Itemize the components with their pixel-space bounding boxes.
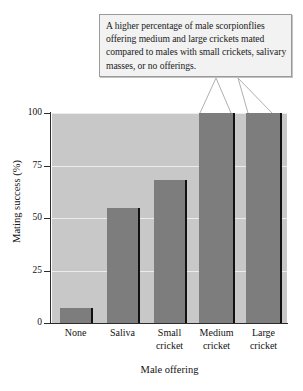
x-tick-label-line: cricket bbox=[240, 340, 287, 353]
y-tick-label: 0 bbox=[16, 317, 42, 327]
bar-large-cricket bbox=[246, 113, 283, 323]
y-tick-mark bbox=[44, 113, 51, 114]
x-tick-label-line: None bbox=[52, 327, 99, 340]
bar-slot bbox=[146, 113, 193, 323]
x-tick-label: None bbox=[52, 327, 99, 352]
bar-small-cricket bbox=[154, 180, 186, 323]
x-tick-label-line: Saliva bbox=[99, 327, 146, 340]
bar-none bbox=[60, 308, 92, 323]
bar-series bbox=[52, 113, 287, 323]
x-tick-label: Saliva bbox=[99, 327, 146, 352]
x-tick-label-line: Medium bbox=[193, 327, 240, 340]
bar-slot bbox=[99, 113, 146, 323]
callout-text: A higher percentage of male scorpionflie… bbox=[106, 19, 287, 72]
plot-area bbox=[52, 113, 287, 323]
x-tick-label-line: Small bbox=[146, 327, 193, 340]
callout-box: A higher percentage of male scorpionflie… bbox=[99, 14, 292, 77]
x-tick-label-line: cricket bbox=[193, 340, 240, 353]
x-axis-labels: NoneSalivaSmallcricketMediumcricketLarge… bbox=[52, 327, 287, 352]
x-tick-label-line: Large bbox=[240, 327, 287, 340]
x-axis-title: Male offering bbox=[52, 364, 287, 375]
bar-medium-cricket bbox=[199, 113, 236, 323]
y-tick-mark bbox=[44, 166, 51, 167]
bar-saliva bbox=[107, 208, 139, 324]
y-tick-mark bbox=[44, 271, 51, 272]
bar-slot bbox=[52, 113, 99, 323]
y-tick-label: 100 bbox=[16, 107, 42, 117]
x-tick-label: Largecricket bbox=[240, 327, 287, 352]
y-tick-mark bbox=[44, 323, 51, 324]
bar-slot bbox=[240, 113, 287, 323]
y-axis-title: Mating success (%) bbox=[11, 122, 22, 282]
x-tick-label-line: cricket bbox=[146, 340, 193, 353]
scorpionfly-mating-success-figure: A higher percentage of male scorpionflie… bbox=[0, 0, 303, 391]
x-tick-label: Mediumcricket bbox=[193, 327, 240, 352]
x-tick-label: Smallcricket bbox=[146, 327, 193, 352]
bar-slot bbox=[193, 113, 240, 323]
x-axis-line bbox=[44, 323, 288, 324]
y-tick-mark bbox=[44, 218, 51, 219]
